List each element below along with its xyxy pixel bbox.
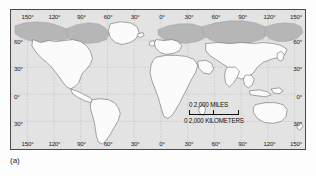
lat-label-left-30s: 30°	[14, 120, 23, 127]
world-map-frame: 150° 120° 90° 60° 30° 0° 30° 60° 90° 120…	[10, 9, 306, 150]
scale-tick-mid	[213, 110, 214, 115]
lon-label-bottom-60e: 60°	[211, 140, 220, 147]
lon-label-bottom-60w: 60°	[104, 140, 113, 147]
scale-tick-end	[238, 110, 239, 115]
lon-label-bottom-150e: 150°	[290, 140, 302, 147]
lon-label-bottom-30w: 30°	[131, 140, 140, 147]
lat-label-left-60n: 60°	[14, 37, 23, 44]
lat-label-left-30n: 30°	[14, 65, 23, 72]
lon-label-top-30w: 30°	[131, 13, 140, 20]
lat-label-left-0: 0°	[14, 92, 20, 99]
scale-bar-rule	[189, 110, 239, 116]
lon-label-bottom-30e: 30°	[185, 140, 194, 147]
lon-label-bottom-150w: 150°	[22, 140, 34, 147]
lon-label-bottom-0: 0°	[159, 140, 165, 147]
lon-label-top-120e: 120°	[264, 13, 276, 20]
lon-label-top-90w: 90°	[77, 13, 86, 20]
lon-label-bottom-90w: 90°	[77, 140, 86, 147]
lon-label-bottom-90e: 90°	[238, 140, 247, 147]
map-scale-bar: 0 2,000 MILES 0 2,000 KILOMETERS	[184, 101, 270, 125]
lon-label-top-30e: 30°	[185, 13, 194, 20]
lat-label-right-30s: 30°	[293, 120, 302, 127]
lon-label-bottom-120w: 120°	[48, 140, 60, 147]
figure-panel: 150° 120° 90° 60° 30° 0° 30° 60° 90° 120…	[0, 0, 316, 176]
lon-label-top-120w: 120°	[48, 13, 60, 20]
map-plot-area	[11, 10, 305, 149]
lat-label-right-60n: 60°	[293, 37, 302, 44]
lon-label-bottom-120e: 120°	[264, 140, 276, 147]
scale-kilometers-label: 0 2,000 KILOMETERS	[184, 117, 270, 125]
lon-label-top-60e: 60°	[211, 13, 220, 20]
lon-label-top-0: 0°	[159, 13, 165, 20]
lat-label-right-0: 0°	[296, 92, 302, 99]
lon-label-top-150w: 150°	[22, 13, 34, 20]
lon-label-top-90e: 90°	[238, 13, 247, 20]
world-map-graphic	[11, 10, 305, 149]
lon-label-top-150e: 150°	[290, 13, 302, 20]
scale-tick-start	[189, 110, 190, 115]
figure-caption: (a)	[10, 156, 20, 165]
scale-miles-label: 0 2,000 MILES	[184, 101, 270, 109]
lon-label-top-60w: 60°	[104, 13, 113, 20]
lat-label-right-30n: 30°	[293, 65, 302, 72]
scale-bar-line	[189, 114, 239, 115]
